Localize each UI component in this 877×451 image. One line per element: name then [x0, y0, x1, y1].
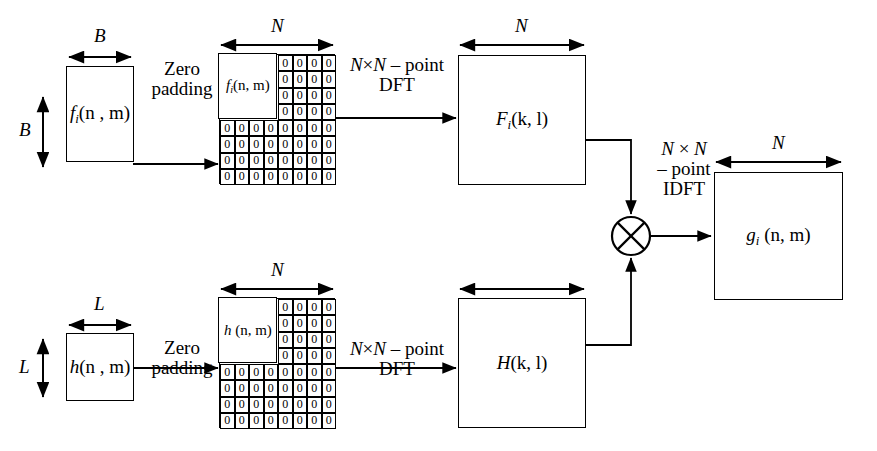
zero-cell: 0 — [322, 88, 337, 104]
dim-label-bottom-height: L — [19, 357, 30, 377]
zero-cell: 0 — [293, 348, 308, 364]
signal-region-bottom: h (n, m) — [218, 297, 277, 363]
zero-cell: 0 — [293, 88, 308, 104]
dft-label-bottom: N×N – point DFT — [338, 339, 456, 379]
signal-region-bottom-label: h (n, m) — [224, 322, 272, 339]
dft-convolution-diagram: B B fi(n , m) Zero padding N fi(n, m) 00… — [0, 0, 877, 451]
zero-cell: 0 — [278, 364, 293, 380]
zero-cell: 0 — [293, 413, 308, 429]
dft-output-box-H-label: H(k, l) — [497, 352, 548, 374]
output-box-gi-label: gi (n, m) — [746, 224, 810, 249]
zero-cell: 0 — [293, 315, 308, 331]
padded-grid-bottom: h (n, m) 0000000000000000000000000000000… — [219, 298, 335, 428]
path-fbox-to-multiplier — [585, 140, 631, 214]
zero-cell: 0 — [278, 332, 293, 348]
zero-cell: 0 — [235, 364, 250, 380]
idft-label-line3: IDFT — [646, 179, 722, 199]
zero-padding-line2: padding — [146, 79, 218, 99]
dim-label-top-fbox-N: N — [515, 16, 528, 36]
zero-cell: 0 — [249, 364, 264, 380]
zero-cell: 0 — [235, 413, 250, 429]
input-box-h-label: h(n , m) — [70, 356, 131, 378]
zero-padding-bottom-line2: padding — [146, 358, 218, 378]
zero-cell: 0 — [293, 104, 308, 120]
zero-cell: 0 — [220, 136, 235, 152]
zero-cell: 0 — [293, 332, 308, 348]
padded-grid-top: fi(n, m) 0000000000000000000000000000000… — [219, 54, 335, 184]
zero-cell: 0 — [264, 364, 279, 380]
zero-cell: 0 — [322, 413, 337, 429]
dft-label-bottom-line1: N×N – point — [338, 339, 456, 359]
zero-cell: 0 — [264, 397, 279, 413]
zero-cell: 0 — [307, 413, 322, 429]
zero-cell: 0 — [249, 169, 264, 185]
input-box-fi-label: fi(n , m) — [70, 102, 130, 127]
zero-cell: 0 — [307, 315, 322, 331]
dft-label-top-line1: N×N – point — [338, 55, 456, 75]
idft-label-line1: N × N — [646, 139, 722, 159]
zero-cell: 0 — [278, 136, 293, 152]
zero-cell: 0 — [249, 397, 264, 413]
zero-padding-line1: Zero — [146, 59, 218, 79]
input-box-fi[interactable]: fi(n , m) — [66, 66, 134, 162]
zero-cell: 0 — [278, 120, 293, 136]
zero-cell: 0 — [220, 120, 235, 136]
zero-padding-bottom-line1: Zero — [146, 338, 218, 358]
zero-cell: 0 — [307, 332, 322, 348]
zero-cell: 0 — [278, 397, 293, 413]
multiplier-operator — [612, 217, 650, 255]
zero-cell: 0 — [322, 380, 337, 396]
zero-cell: 0 — [322, 169, 337, 185]
dim-label-top-grid-N: N — [271, 16, 284, 36]
zero-padding-label-top: Zero padding — [146, 59, 218, 99]
zero-cell: 0 — [307, 169, 322, 185]
signal-region-top: fi(n, m) — [218, 53, 277, 119]
zero-cell: 0 — [235, 120, 250, 136]
idft-label: N × N – point IDFT — [646, 139, 722, 199]
zero-cell: 0 — [322, 397, 337, 413]
zero-cell: 0 — [235, 136, 250, 152]
zero-cell: 0 — [249, 380, 264, 396]
zero-cell: 0 — [278, 299, 293, 315]
output-box-gi[interactable]: gi (n, m) — [714, 172, 843, 300]
zero-cell: 0 — [322, 136, 337, 152]
dft-output-box-H[interactable]: H(k, l) — [458, 298, 586, 428]
zero-cell: 0 — [264, 136, 279, 152]
zero-cell: 0 — [220, 169, 235, 185]
input-box-h[interactable]: h(n , m) — [66, 333, 134, 401]
zero-cell: 0 — [307, 397, 322, 413]
dft-label-top-line2: DFT — [338, 75, 456, 95]
zero-cell: 0 — [220, 413, 235, 429]
zero-cell: 0 — [293, 120, 308, 136]
zero-cell: 0 — [278, 71, 293, 87]
zero-cell: 0 — [293, 397, 308, 413]
zero-cell: 0 — [278, 348, 293, 364]
zero-cell: 0 — [322, 348, 337, 364]
zero-cell: 0 — [307, 71, 322, 87]
zero-cell: 0 — [249, 413, 264, 429]
zero-cell: 0 — [264, 413, 279, 429]
dft-label-top: N×N – point DFT — [338, 55, 456, 95]
zero-cell: 0 — [235, 380, 250, 396]
zero-cell: 0 — [278, 380, 293, 396]
dim-label-top-width: B — [94, 26, 106, 46]
zero-cell: 0 — [322, 71, 337, 87]
signal-region-top-label: fi(n, m) — [226, 77, 270, 95]
dft-output-box-Fi-label: Fi(k, l) — [496, 108, 548, 133]
dft-output-box-Fi[interactable]: Fi(k, l) — [458, 55, 586, 185]
zero-cell: 0 — [264, 120, 279, 136]
zero-cell: 0 — [264, 169, 279, 185]
zero-cell: 0 — [278, 315, 293, 331]
zero-cell: 0 — [293, 169, 308, 185]
zero-cell: 0 — [278, 413, 293, 429]
idft-label-line2: – point — [646, 159, 722, 179]
zero-padding-label-bottom: Zero padding — [146, 338, 218, 378]
zero-cell: 0 — [278, 55, 293, 71]
zero-cell: 0 — [293, 55, 308, 71]
zero-cell: 0 — [235, 153, 250, 169]
zero-cell: 0 — [293, 153, 308, 169]
zero-cell: 0 — [278, 169, 293, 185]
zero-cell: 0 — [322, 104, 337, 120]
zero-cell: 0 — [220, 397, 235, 413]
dim-label-output-N: N — [772, 133, 785, 153]
